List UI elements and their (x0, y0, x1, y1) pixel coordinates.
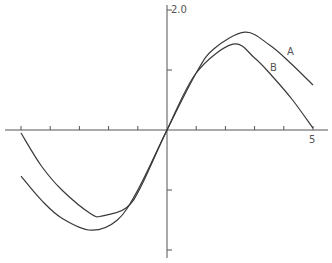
line-chart (0, 0, 332, 263)
curve-a-label: A (287, 47, 294, 57)
curve-b-label: B (270, 63, 277, 73)
x-axis-max-label: 5 (309, 135, 315, 145)
y-axis-max-label: 2.0 (171, 5, 187, 15)
